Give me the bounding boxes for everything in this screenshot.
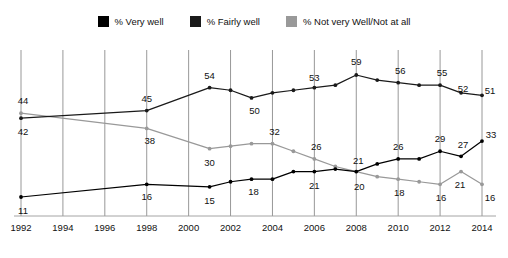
data-label-0-2001: 54 xyxy=(204,70,215,81)
data-label-1-2014: 16 xyxy=(485,192,496,203)
data-label-1-2006: 26 xyxy=(311,141,322,152)
x-tick-label-1994: 1994 xyxy=(52,222,73,233)
data-point xyxy=(208,147,212,151)
data-label-1-2004: 32 xyxy=(269,126,280,137)
data-point xyxy=(375,78,379,82)
data-point xyxy=(480,93,484,97)
data-label-2-1992: 11 xyxy=(18,205,28,216)
legend-swatch-not-well xyxy=(286,16,297,27)
data-point xyxy=(19,111,23,115)
x-tick-label-1996: 1996 xyxy=(94,222,115,233)
data-point xyxy=(312,170,316,174)
data-point xyxy=(480,139,484,143)
data-point xyxy=(19,195,23,199)
data-point xyxy=(396,157,400,161)
data-point xyxy=(354,170,358,174)
x-tick-label-2006: 2006 xyxy=(304,222,325,233)
x-tick-label-1992: 1992 xyxy=(10,222,31,233)
data-point xyxy=(229,144,233,148)
data-point xyxy=(417,157,421,161)
data-point xyxy=(333,83,337,87)
data-point xyxy=(312,157,316,161)
data-label-1-2001: 30 xyxy=(204,157,215,168)
data-point xyxy=(480,182,484,186)
x-tick-label-2010: 2010 xyxy=(388,222,409,233)
data-label-2-2001: 15 xyxy=(204,195,215,206)
data-label-1-2008: 20 xyxy=(354,181,365,192)
data-point xyxy=(396,81,400,85)
legend-label-2: % Not very Well/Not at all xyxy=(303,16,411,27)
data-point xyxy=(271,91,275,95)
data-point xyxy=(229,180,233,184)
x-tick-label-2012: 2012 xyxy=(430,222,451,233)
data-point xyxy=(271,177,275,181)
data-label-1-1992: 44 xyxy=(18,95,29,106)
data-label-2-1998: 16 xyxy=(141,191,152,202)
x-tick-label-2002: 2002 xyxy=(220,222,241,233)
legend-label-1: % Fairly well xyxy=(207,16,260,27)
data-point xyxy=(333,167,337,171)
data-label-0-2013: 52 xyxy=(458,83,469,94)
data-point xyxy=(375,175,379,179)
data-point xyxy=(271,142,275,146)
data-point xyxy=(438,182,442,186)
chart-legend: % Very well% Fairly well% Not very Well/… xyxy=(0,16,508,27)
data-label-2-2003: 18 xyxy=(248,186,259,197)
data-label-0-2010: 56 xyxy=(395,65,406,76)
x-tick-label-1998: 1998 xyxy=(136,222,157,233)
data-point xyxy=(438,149,442,153)
data-label-0-2012: 55 xyxy=(437,67,448,78)
data-point xyxy=(375,162,379,166)
legend-item-1[interactable]: % Fairly well xyxy=(190,16,260,27)
data-label-2-2012: 29 xyxy=(435,133,446,144)
legend-item-0[interactable]: % Very well xyxy=(98,16,164,27)
data-point xyxy=(312,86,316,90)
data-label-0-1992: 42 xyxy=(18,126,29,137)
data-point xyxy=(208,86,212,90)
data-point xyxy=(438,83,442,87)
data-point xyxy=(145,109,149,113)
data-label-0-2008: 59 xyxy=(351,56,362,67)
data-label-0-2014: 51 xyxy=(485,85,496,96)
data-label-2-2014: 33 xyxy=(486,129,497,140)
legend-label-0: % Very well xyxy=(115,16,164,27)
legend-swatch-fairly-well xyxy=(190,16,201,27)
data-label-0-2003: 50 xyxy=(249,105,260,116)
data-point xyxy=(145,182,149,186)
data-point xyxy=(292,170,296,174)
data-label-1-1998: 38 xyxy=(144,135,155,146)
data-point xyxy=(459,154,463,158)
data-point xyxy=(208,185,212,189)
data-label-2-2013: 27 xyxy=(458,139,469,150)
data-label-2-2006: 21 xyxy=(309,180,320,191)
series-line-1 xyxy=(21,113,482,184)
x-tick-label-2004: 2004 xyxy=(262,222,283,233)
data-label-1-2012: 16 xyxy=(436,192,447,203)
x-tick-label-2014: 2014 xyxy=(471,222,492,233)
data-point xyxy=(19,116,23,120)
data-label-0-2006: 53 xyxy=(309,72,320,83)
data-point xyxy=(292,88,296,92)
legend-swatch-very-well xyxy=(98,16,109,27)
data-label-2-2010: 26 xyxy=(393,141,404,152)
data-point xyxy=(354,73,358,77)
data-label-2-2008: 21 xyxy=(353,155,364,166)
data-point xyxy=(229,88,233,92)
data-label-0-1998: 45 xyxy=(141,93,152,104)
x-tick-label-2000: 2000 xyxy=(178,222,199,233)
data-point xyxy=(292,149,296,153)
legend-item-2[interactable]: % Not very Well/Not at all xyxy=(286,16,411,27)
data-label-1-2010: 18 xyxy=(394,187,405,198)
data-point xyxy=(250,142,254,146)
data-point xyxy=(250,96,254,100)
data-point xyxy=(396,177,400,181)
data-point xyxy=(459,170,463,174)
data-point xyxy=(417,180,421,184)
x-tick-label-2008: 2008 xyxy=(346,222,367,233)
data-point xyxy=(250,177,254,181)
data-point xyxy=(145,126,149,130)
data-label-1-2013: 21 xyxy=(455,179,466,190)
line-chart: % Very well% Fairly well% Not very Well/… xyxy=(0,0,508,258)
data-point xyxy=(417,83,421,87)
